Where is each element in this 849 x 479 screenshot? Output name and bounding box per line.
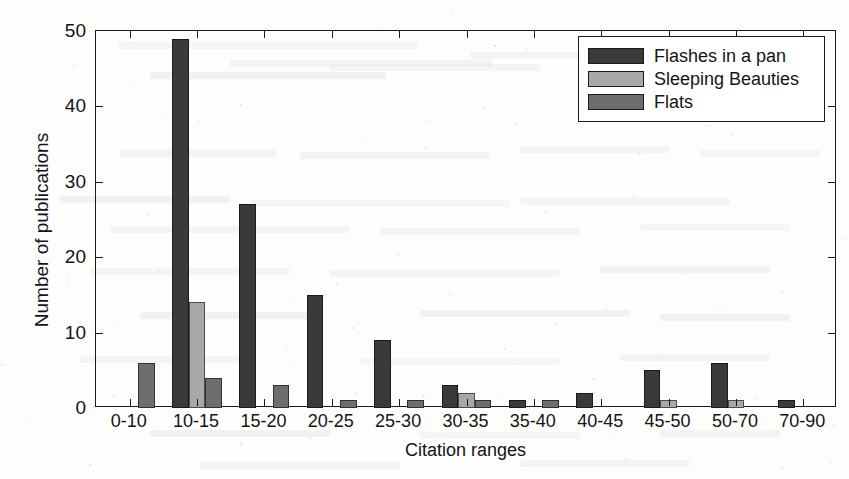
x-axis-tick-label: 30-35 <box>442 412 488 430</box>
y-axis-tick-label: 50 <box>0 21 86 40</box>
x-axis-tick-label: 15-20 <box>240 412 286 430</box>
bar <box>475 400 492 408</box>
y-axis-tick-mark <box>96 182 103 183</box>
x-axis-tick-label: 70-90 <box>779 412 825 430</box>
y-axis-tick-mark <box>828 333 835 334</box>
y-axis-tick-mark <box>828 257 835 258</box>
x-axis-tick-label: 45-50 <box>645 412 691 430</box>
legend-color-swatch <box>588 71 644 87</box>
x-axis-tick-mark <box>736 399 737 406</box>
x-axis-tick-mark <box>197 399 198 406</box>
bar <box>340 400 357 408</box>
legend-label: Flashes in a pan <box>654 47 786 65</box>
x-axis-tick-mark <box>399 31 400 38</box>
bar <box>307 295 324 408</box>
x-axis-tick-mark <box>264 399 265 406</box>
x-axis-tick-label: 40-45 <box>577 412 623 430</box>
bar <box>407 400 424 408</box>
bar <box>273 385 290 408</box>
x-axis-title: Citation ranges <box>95 440 836 461</box>
x-axis-tick-label: 0-10 <box>111 412 147 430</box>
x-axis-tick-mark <box>130 399 131 406</box>
legend-label: Sleeping Beauties <box>654 70 799 88</box>
y-axis-tick-mark <box>96 257 103 258</box>
x-axis-tick-mark <box>332 399 333 406</box>
bar <box>239 204 256 408</box>
x-axis-tick-label: 35-40 <box>510 412 556 430</box>
x-axis-tick-label: 10-15 <box>173 412 219 430</box>
bar <box>644 370 661 408</box>
chart-legend: Flashes in a panSleeping BeautiesFlats <box>578 36 825 122</box>
x-axis-tick-mark <box>669 399 670 406</box>
legend-color-swatch <box>588 94 644 110</box>
x-axis-tick-mark <box>601 399 602 406</box>
bar <box>172 39 189 408</box>
bar <box>374 340 391 408</box>
x-axis-tick-mark <box>130 31 131 38</box>
bar <box>711 363 728 408</box>
y-axis-tick-mark <box>96 106 103 107</box>
legend-label: Flats <box>654 93 693 111</box>
bar <box>205 378 222 408</box>
x-axis-tick-mark <box>534 399 535 406</box>
x-axis-tick-mark <box>264 31 265 38</box>
x-axis-tick-mark <box>534 31 535 38</box>
x-axis-tick-mark <box>332 31 333 38</box>
bar <box>189 302 206 408</box>
x-axis-tick-mark <box>803 399 804 406</box>
x-axis-tick-mark <box>197 31 198 38</box>
y-axis-tick-mark <box>96 333 103 334</box>
legend-item: Sleeping Beauties <box>588 67 815 90</box>
x-axis-tick-label: 20-25 <box>308 412 354 430</box>
x-axis-tick-mark <box>467 31 468 38</box>
bar <box>576 393 593 408</box>
x-axis-tick-mark <box>467 399 468 406</box>
y-axis-tick-label: 0 <box>0 398 86 417</box>
bar <box>509 400 526 408</box>
bar <box>542 400 559 408</box>
x-axis-tick-label: 25-30 <box>375 412 421 430</box>
bar <box>442 385 459 408</box>
x-axis-tick-label-group: 0-1010-1515-2020-2525-3030-3535-4040-454… <box>95 412 836 438</box>
y-axis-tick-mark <box>828 182 835 183</box>
legend-color-swatch <box>588 48 644 64</box>
y-axis-tick-mark <box>828 106 835 107</box>
bar <box>778 400 795 408</box>
x-axis-tick-label: 50-70 <box>712 412 758 430</box>
legend-item: Flats <box>588 90 815 113</box>
bar <box>138 363 155 408</box>
bar-chart-figure: 01020304050 Number of publications 0-101… <box>0 0 849 479</box>
y-axis-title: Number of publications <box>31 100 53 360</box>
legend-item: Flashes in a pan <box>588 44 815 67</box>
x-axis-tick-mark <box>399 399 400 406</box>
